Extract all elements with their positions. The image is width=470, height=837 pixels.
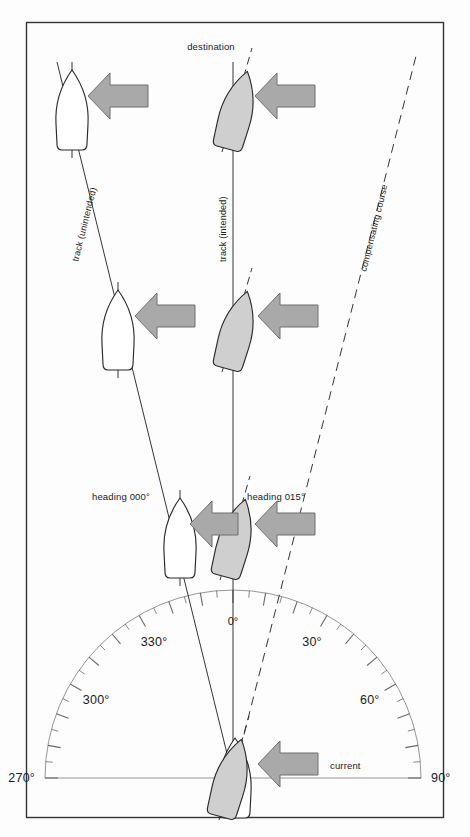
compass-label-30deg: 30° — [302, 635, 322, 649]
compass-label-330deg: 330° — [141, 635, 168, 649]
label-track-intended: track (intended) — [218, 196, 228, 262]
compass-label-300deg: 300° — [83, 693, 110, 707]
navigation-diagram-figure: destination track (unintended) track (in… — [0, 0, 470, 837]
compass-label-90deg: 90° — [431, 771, 451, 785]
label-heading-015: heading 015° — [247, 491, 305, 502]
compass-label-60deg: 60° — [360, 693, 380, 707]
label-current: current — [330, 760, 361, 771]
compass-label-270deg: 270° — [8, 771, 35, 785]
label-destination: destination — [187, 41, 235, 52]
label-heading-000: heading 000° — [92, 491, 150, 502]
diagram-canvas: destination track (unintended) track (in… — [0, 0, 470, 837]
compass-label-0deg: 0° — [228, 615, 239, 627]
